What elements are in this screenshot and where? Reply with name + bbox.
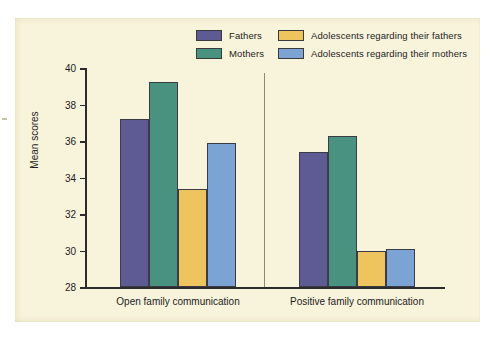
- legend-label: Adolescents regarding their fathers: [311, 30, 462, 41]
- group-separator-line: [264, 73, 265, 287]
- legend-label: Fathers: [229, 30, 262, 41]
- y-axis-tick-label: 32: [65, 209, 76, 220]
- legend-swatch: [196, 48, 222, 59]
- legend-label: Adolescents regarding their mothers: [311, 48, 467, 59]
- y-axis-tick-label: 38: [65, 99, 76, 110]
- legend-swatch: [278, 48, 304, 59]
- y-axis-tick-label: 36: [65, 136, 76, 147]
- plot-area: 40383634323028Open family communicationP…: [85, 68, 445, 287]
- bar: [328, 136, 357, 287]
- y-axis-tick-label: 34: [65, 172, 76, 183]
- x-axis-tick-label: Open family communication: [116, 296, 239, 307]
- bar: [386, 249, 415, 287]
- chart-legend: FathersAdolescents regarding their fathe…: [196, 29, 467, 60]
- bar: [120, 119, 149, 287]
- legend-label: Mothers: [229, 48, 264, 59]
- y-axis-tick: [80, 251, 85, 253]
- y-axis-tick: [80, 214, 85, 216]
- y-axis-tick-label: 28: [65, 282, 76, 293]
- y-axis-tick: [80, 68, 85, 70]
- y-axis-tick: [80, 105, 85, 107]
- legend-item: Adolescents regarding their mothers: [278, 47, 467, 60]
- x-axis-tick-label: Positive family communication: [290, 296, 424, 307]
- bar: [207, 143, 236, 287]
- bar: [178, 189, 207, 287]
- bar: [357, 251, 386, 288]
- y-axis-tick: [80, 141, 85, 143]
- y-axis-title: Mean scores: [29, 111, 40, 168]
- legend-swatch: [278, 30, 304, 41]
- legend-item: Fathers: [196, 29, 264, 42]
- legend-item: Mothers: [196, 47, 264, 60]
- bar: [149, 82, 178, 287]
- y-axis-tick: [80, 178, 85, 180]
- y-axis-tick: [80, 287, 85, 289]
- y-axis-tick-label: 30: [65, 245, 76, 256]
- chart-figure: FathersAdolescents regarding their fathe…: [0, 0, 497, 339]
- legend-swatch: [196, 30, 222, 41]
- y-axis-line: [85, 68, 87, 287]
- scan-edge-artifact: [2, 118, 7, 120]
- legend-item: Adolescents regarding their fathers: [278, 29, 467, 42]
- x-axis-line: [85, 287, 445, 289]
- bar: [299, 152, 328, 287]
- y-axis-tick-label: 40: [65, 63, 76, 74]
